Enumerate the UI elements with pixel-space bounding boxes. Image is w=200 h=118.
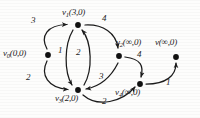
edge-weight-v2-v4: 4 bbox=[137, 49, 142, 59]
node-label-v4: v4(∞,0) bbox=[115, 87, 140, 98]
edge-weight-v0-v1: 3 bbox=[31, 15, 36, 25]
node-dot-v0[interactable] bbox=[45, 52, 51, 58]
edge-weight-v0-v3: 2 bbox=[26, 72, 31, 82]
edge-v0-v3 bbox=[45, 61, 68, 90]
edge-weight-v2-v3: 3 bbox=[99, 71, 104, 81]
node-dot-v5[interactable] bbox=[173, 54, 179, 60]
edge-weight-v4-v5: 1 bbox=[166, 77, 171, 87]
edge-v0-v1 bbox=[44, 25, 67, 50]
edge-v3-v1 bbox=[82, 30, 90, 85]
node-label-v0: v0(0,0) bbox=[3, 48, 26, 59]
edge-weight-v3-v4: 2 bbox=[102, 96, 107, 106]
graph-canvas bbox=[0, 0, 200, 118]
node-dot-v1[interactable] bbox=[75, 22, 81, 28]
node-label-v5: v(∞,0) bbox=[155, 37, 177, 47]
graph-figure: v0(0,0) v1(3,0) v2(∞,0) v3(2,0) v4(∞,0) … bbox=[0, 0, 200, 118]
node-label-v3: v3(2,0) bbox=[55, 93, 78, 104]
edge-v1-v2 bbox=[85, 25, 118, 48]
edge-weight-v3-v1: 2 bbox=[76, 47, 81, 57]
edge-v4-v5 bbox=[146, 63, 176, 84]
edge-v2-v4 bbox=[125, 57, 142, 77]
node-label-v2: v2(∞,0) bbox=[116, 37, 141, 48]
node-label-v1: v1(3,0) bbox=[62, 7, 85, 18]
edge-v1-v3 bbox=[66, 30, 73, 85]
node-dot-v2[interactable] bbox=[116, 53, 122, 59]
edge-weight-v1-v2: 4 bbox=[102, 13, 107, 23]
edge-weight-v1-v3: 1 bbox=[58, 45, 63, 55]
